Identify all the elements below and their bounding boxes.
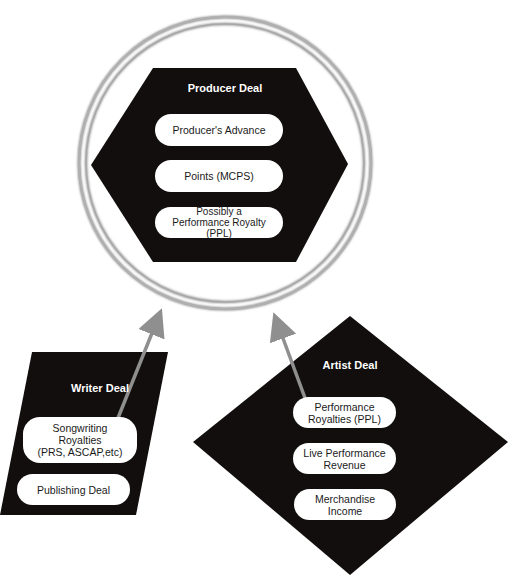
producer-advance-pill: Producer's Advance <box>155 114 283 146</box>
performance-royalty-pill: Possibly a Performance Royalty (PPL) <box>155 207 283 238</box>
artist-deal-title: Artist Deal <box>300 359 400 371</box>
live-performance-revenue-pill: Live Performance Revenue <box>293 443 396 474</box>
merchandise-income-pill: Merchandise Income <box>294 489 396 520</box>
publishing-deal-pill: Publishing Deal <box>17 474 130 505</box>
writer-deal-title: Writer Deal <box>50 382 150 394</box>
producer-deal-title: Producer Deal <box>160 82 290 94</box>
songwriting-royalties-pill: Songwriting Royalties (PRS, ASCAP,etc) <box>23 417 137 463</box>
performance-royalties-ppl-pill: Performance Royalties (PPL) <box>293 397 396 428</box>
points-mcps-pill: Points (MCPS) <box>155 160 283 192</box>
